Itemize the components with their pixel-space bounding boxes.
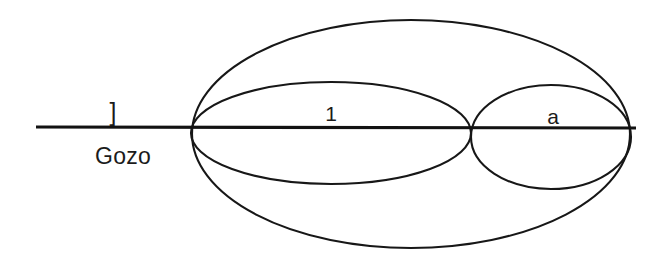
inner-right-label: a [547,106,559,127]
bracket-label: ] [110,100,117,125]
outer-ellipse [192,20,630,248]
inner-left-label: 1 [325,103,337,124]
horizontal-axis-line [36,127,636,128]
caption-label-gozo: Gozo [95,145,151,168]
inner-right-ellipse [471,85,631,189]
diagram-svg [0,0,668,268]
figure-canvas: ] Gozo 1 a [0,0,668,268]
inner-left-ellipse [191,82,471,184]
